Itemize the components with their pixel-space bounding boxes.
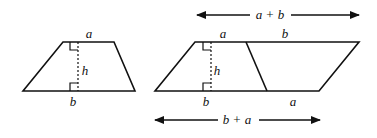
bottom-dimension-arrow: b + a — [155, 112, 320, 127]
right-angle-mark-bottom — [203, 83, 211, 91]
area-of-trapezoid-diagram: a h b a b h b a a + b b + a — [0, 0, 377, 138]
bottom-arrow-label-b: b — [223, 112, 230, 127]
right-angle-mark-top — [203, 42, 211, 50]
trapezoid: a h b — [23, 26, 135, 109]
dividing-line — [246, 42, 267, 91]
parallelogram: a b h b a — [155, 26, 359, 109]
trapezoid-label-a: a — [86, 26, 93, 41]
parallelogram-label-h: h — [214, 63, 221, 78]
bottom-arrow-label-a: a — [245, 112, 252, 127]
top-dimension-arrow: a + b — [197, 7, 359, 22]
bottom-arrow-plus: + — [233, 112, 240, 127]
trapezoid-label-b: b — [70, 94, 77, 109]
parallelogram-label-bottom-b: b — [203, 94, 210, 109]
parallelogram-label-top-a: a — [220, 26, 227, 41]
parallelogram-label-bottom-a: a — [290, 94, 297, 109]
top-arrow-plus: + — [266, 7, 273, 22]
parallelogram-label-top-b: b — [282, 26, 289, 41]
top-arrow-label-a: a — [256, 7, 263, 22]
right-angle-mark-top — [70, 42, 78, 50]
top-arrow-label-b: b — [278, 7, 285, 22]
right-angle-mark-bottom — [70, 83, 78, 91]
trapezoid-label-h: h — [82, 63, 89, 78]
trapezoid-outline — [23, 42, 135, 91]
